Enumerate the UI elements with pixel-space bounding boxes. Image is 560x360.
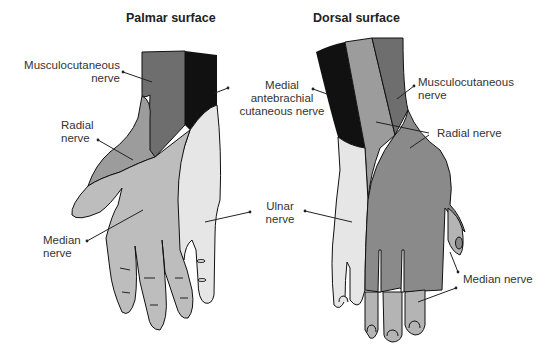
palmar-hand (72, 51, 221, 330)
palmar-surface-title: Palmar surface (126, 11, 216, 25)
ulnar-label: Ulnar nerve (255, 200, 305, 226)
palmar-median-label: Median nerve (43, 234, 81, 260)
dorsal-surface-title: Dorsal surface (313, 11, 400, 25)
dorsal-ulnar-region (332, 137, 368, 308)
palmar-radial-label: Radial nerve (61, 119, 94, 145)
nerve-diagram (0, 0, 560, 360)
dorsal-musculocutaneous-label: Musculocutaneous nerve (418, 76, 514, 102)
dorsal-median-label: Median nerve (463, 273, 533, 286)
palmar-musculocutaneous-label: Musculocutaneous nerve (8, 59, 120, 85)
medial-antebrachial-label: Medial antebrachial cutaneous nerve (232, 79, 332, 118)
dorsal-radial-label: Radial nerve (437, 127, 502, 140)
